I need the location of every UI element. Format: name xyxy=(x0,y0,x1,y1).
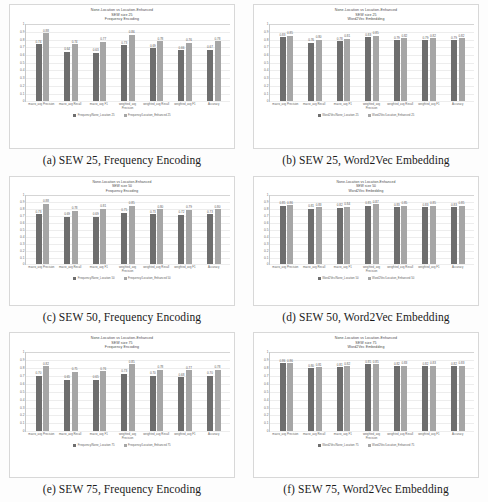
legend-swatch xyxy=(73,444,76,447)
bar-group: 0.780.81 xyxy=(329,24,358,101)
plot-canvas: 10.90.80.70.60.50.40.30.20.100.850.860.8… xyxy=(269,195,474,265)
y-axis-tick: 0.9 xyxy=(20,200,24,204)
bar-value-label: 0.75 xyxy=(121,208,127,212)
bar-group: 0.690.78 xyxy=(57,195,86,264)
bar: 0.85 xyxy=(430,206,436,265)
x-axis-tick-label: Accuracy xyxy=(443,266,472,273)
y-axis-tick: 0.5 xyxy=(20,390,24,394)
bar-value-label: 0.83 xyxy=(451,203,457,207)
bar-series-container: 0.740.880.640.740.630.770.730.860.690.78… xyxy=(26,24,230,101)
bar-series-container: 0.700.820.650.750.650.760.730.850.700.78… xyxy=(26,352,230,431)
bar-value-label: 0.82 xyxy=(43,362,49,366)
y-axis-tick: 0.4 xyxy=(20,398,24,402)
panel-title-line-3: Word2Vec Embedding xyxy=(254,17,478,22)
figure-panel-e: None-Location vs Location-EnhancedSEW si… xyxy=(4,332,240,502)
panel-caption: (d) SEW 50, Word2Vec Embedding xyxy=(282,311,449,323)
bar: 0.73 xyxy=(36,214,42,264)
legend-label: Frequency/None_Location 75 xyxy=(78,443,115,447)
legend-swatch xyxy=(73,114,76,117)
bar-value-label: 0.81 xyxy=(316,363,322,367)
bar-group: 0.720.79 xyxy=(171,195,200,264)
bar-value-label: 0.85 xyxy=(129,360,135,364)
bar-group: 0.750.85 xyxy=(114,195,143,264)
x-axis-tick-label: weighted_avg Precision xyxy=(357,433,386,440)
x-axis-tick-label: weighted_avg Precision xyxy=(357,266,386,273)
x-axis-tick-label: weighted_avg Recall xyxy=(142,103,171,110)
bar: 0.85 xyxy=(129,364,135,431)
x-axis-tick-label: weighted_avg F1 xyxy=(171,433,200,440)
bar-group: 0.700.82 xyxy=(28,352,57,431)
bar-value-label: 0.81 xyxy=(308,204,314,208)
bar-value-label: 0.82 xyxy=(401,34,407,38)
legend-item: Frequency/Location_Enhanced 75 xyxy=(124,443,171,447)
bar-value-label: 0.73 xyxy=(150,210,156,214)
y-axis-tick: 0 xyxy=(267,262,269,266)
bar-value-label: 0.78 xyxy=(157,365,163,369)
y-axis-tick: 0.7 xyxy=(20,45,24,49)
y-axis-tick: 0.4 xyxy=(264,68,268,72)
bar-group: 0.830.85 xyxy=(443,195,472,264)
panel-title: None-Location vs Location-EnhancedSEW si… xyxy=(254,5,478,22)
bar-group: 0.860.86 xyxy=(272,352,301,431)
panel-caption: (a) SEW 25, Frequency Encoding xyxy=(43,154,201,166)
bar: 0.78 xyxy=(215,370,221,432)
y-axis-tick: 0 xyxy=(267,429,269,433)
bar: 0.83 xyxy=(459,366,465,432)
y-axis-tick: 0.6 xyxy=(20,221,24,225)
bar: 0.85 xyxy=(129,206,135,265)
bar: 0.79 xyxy=(451,40,457,101)
y-axis-tick: 0.3 xyxy=(20,76,24,80)
bar: 0.78 xyxy=(157,41,163,101)
y-axis-tick: 0.2 xyxy=(20,84,24,88)
panel-title-line-3: Frequency Encoding xyxy=(10,189,234,193)
bar-value-label: 0.73 xyxy=(207,210,213,214)
x-axis-tick-label: macro_avg Precision xyxy=(271,433,300,440)
chart-legend: Frequency/None_Location 50Frequency/Loca… xyxy=(14,276,230,280)
bar-group: 0.820.84 xyxy=(329,195,358,264)
x-axis-labels: macro_avg Precisionmacro_avg Recallmacro… xyxy=(269,102,474,110)
plot-canvas: 10.90.80.70.60.50.40.30.20.100.860.860.8… xyxy=(269,352,474,432)
bar-value-label: 0.83 xyxy=(365,33,371,37)
x-axis-tick-label: weighted_avg Precision xyxy=(113,266,142,273)
legend-swatch xyxy=(124,444,127,447)
plot-area: 10.90.80.70.60.50.40.30.20.100.740.880.6… xyxy=(14,24,230,117)
bar-value-label: 0.69 xyxy=(93,212,99,216)
bar-value-label: 0.78 xyxy=(337,37,343,41)
y-axis-tick: 0.7 xyxy=(20,214,24,218)
bar-series-container: 0.830.850.760.800.780.810.830.850.790.82… xyxy=(270,24,474,101)
plot-area: 10.90.80.70.60.50.40.30.20.100.830.850.7… xyxy=(258,24,474,117)
legend-swatch xyxy=(318,114,321,117)
bar: 0.85 xyxy=(287,36,293,101)
figure-panel-a: None-Location vs Location-EnhancedSEW si… xyxy=(4,4,240,176)
x-axis-tick-label: macro_avg Precision xyxy=(27,103,56,110)
bar: 0.81 xyxy=(337,367,343,431)
legend-label: Word2Vec/Location_Enhanced 25 xyxy=(372,113,414,117)
bar-value-label: 0.82 xyxy=(423,362,429,366)
legend-swatch xyxy=(368,444,371,447)
bar: 0.80 xyxy=(308,368,314,431)
bar: 0.82 xyxy=(337,208,343,265)
chart-panel: None-Location vs Location-EnhancedSEW si… xyxy=(9,4,235,149)
bar-value-label: 0.80 xyxy=(215,205,221,209)
y-axis-tick: 1 xyxy=(267,350,269,354)
bar: 0.83 xyxy=(422,207,428,264)
y-axis-tick: 0.3 xyxy=(20,406,24,410)
bar-value-label: 0.83 xyxy=(401,361,407,365)
bar-group: 0.730.85 xyxy=(114,352,143,431)
legend-item: Word2Vec/Location_Enhanced 50 xyxy=(368,276,415,280)
y-axis-tick: 0.6 xyxy=(264,382,268,386)
x-axis-tick-label: macro_avg F1 xyxy=(328,103,357,110)
bar: 0.75 xyxy=(72,372,78,431)
y-axis-tick: 0.2 xyxy=(20,413,24,417)
x-axis-labels: macro_avg Precisionmacro_avg Recallmacro… xyxy=(25,102,230,110)
gridline xyxy=(26,431,230,432)
y-axis-tick: 0.2 xyxy=(264,249,268,253)
y-axis-tick: 0 xyxy=(23,429,25,433)
x-axis-tick-label: macro_avg F1 xyxy=(84,433,113,440)
bar: 0.78 xyxy=(157,370,163,432)
bar: 0.70 xyxy=(36,376,42,431)
gridline xyxy=(26,101,230,102)
bar-value-label: 0.81 xyxy=(100,204,106,208)
y-axis-tick: 0.1 xyxy=(264,421,268,425)
bar: 0.88 xyxy=(43,204,49,265)
